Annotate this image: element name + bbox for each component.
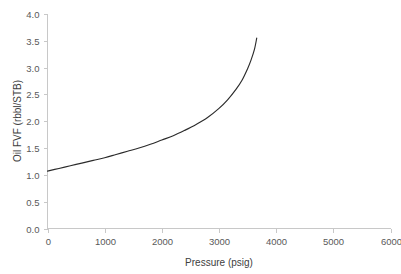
x-tick-label: 1000 — [95, 236, 116, 247]
y-tick-label: 0.0 — [26, 224, 39, 235]
y-tick-label: 3.5 — [26, 36, 39, 47]
y-tick-label: 2.5 — [26, 89, 39, 100]
chart-background — [0, 0, 401, 274]
chart-container: 0.00.51.01.52.02.53.03.54.0 Oil FVF (rbb… — [0, 0, 401, 274]
x-tick-label: 5000 — [323, 236, 344, 247]
y-tick-label: 1.0 — [26, 170, 39, 181]
y-tick-label: 1.5 — [26, 143, 39, 154]
x-tick-label: 2000 — [152, 236, 173, 247]
y-tick-label: 2.0 — [26, 116, 39, 127]
oil-fvf-vs-pressure-chart: 0.00.51.01.52.02.53.03.54.0 Oil FVF (rbb… — [0, 0, 401, 274]
x-tick-label: 6000 — [381, 236, 401, 247]
y-tick-label: 4.0 — [26, 9, 39, 20]
x-tick-label: 0 — [46, 236, 51, 247]
y-tick-label: 0.5 — [26, 197, 39, 208]
y-tick-label: 3.0 — [26, 63, 39, 74]
y-axis-tick-labels: 0.00.51.01.52.02.53.03.54.0 — [26, 9, 39, 235]
y-axis-title: Oil FVF (rbbl/STB) — [12, 80, 23, 162]
x-tick-label: 3000 — [209, 236, 230, 247]
x-tick-label: 4000 — [266, 236, 287, 247]
x-axis-title: Pressure (psig) — [185, 257, 253, 268]
